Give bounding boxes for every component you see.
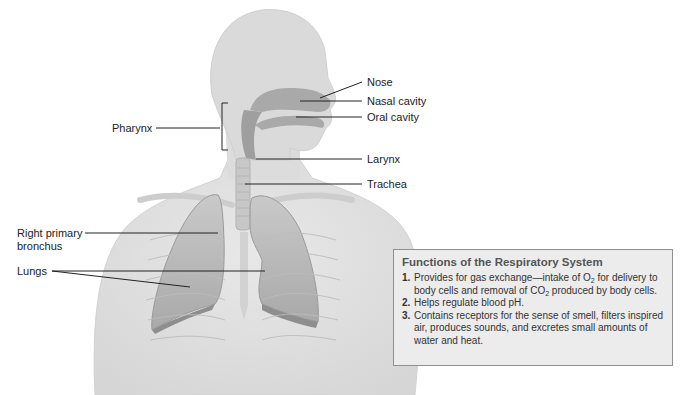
function-item-number: 2. [402,297,410,310]
label-larynx: Larynx [367,153,400,166]
function-item-text: Helps regulate blood pH. [414,297,524,308]
label-oral-cavity: Oral cavity [367,111,419,124]
label-lungs: Lungs [17,265,47,278]
label-nose: Nose [367,76,393,89]
function-item-1: 1. Provides for gas exchange—intake of O… [402,272,664,297]
function-item-number: 3. [402,310,410,323]
head [211,10,336,160]
label-right-primary-bronchus-line2: bronchus [17,240,82,253]
function-item-text: Contains receptors for the sense of smel… [414,310,663,346]
function-item-2: 2. Helps regulate blood pH. [402,297,664,310]
torso [94,160,420,395]
function-item-3: 3. Contains receptors for the sense of s… [402,310,664,348]
function-item-number: 1. [402,272,410,285]
label-right-primary-bronchus-line1: Right primary [17,227,82,240]
functions-box: Functions of the Respiratory System 1. P… [393,249,673,366]
label-nasal-cavity: Nasal cavity [367,95,426,108]
functions-box-title: Functions of the Respiratory System [402,256,664,268]
label-right-primary-bronchus: Right primary bronchus [17,227,82,253]
label-trachea: Trachea [367,178,407,191]
label-pharynx: Pharynx [112,122,152,135]
trachea-shape [236,158,250,230]
functions-list: 1. Provides for gas exchange—intake of O… [402,272,664,347]
